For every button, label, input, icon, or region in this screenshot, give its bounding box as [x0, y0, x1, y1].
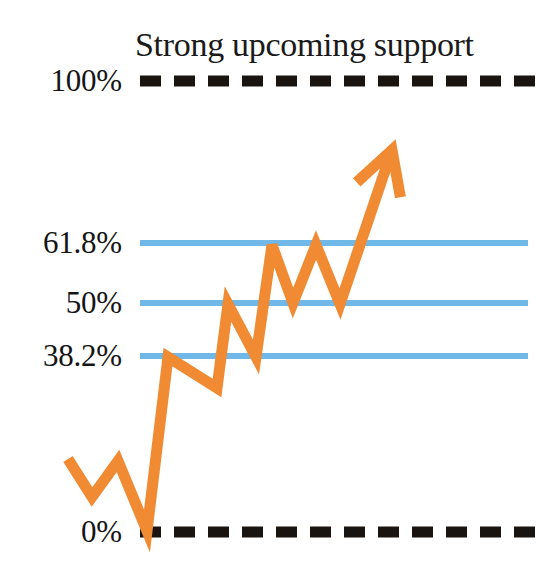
axis-label-50: 50%	[0, 285, 122, 321]
fibonacci-retracement-chart: Strong upcoming support 100% 61.8% 50% 3…	[0, 0, 558, 584]
axis-label-38-2: 38.2%	[0, 338, 122, 374]
axis-label-61-8: 61.8%	[0, 225, 122, 261]
chart-title: Strong upcoming support	[135, 26, 474, 64]
axis-label-100: 100%	[0, 63, 122, 99]
axis-label-0: 0%	[0, 514, 122, 550]
